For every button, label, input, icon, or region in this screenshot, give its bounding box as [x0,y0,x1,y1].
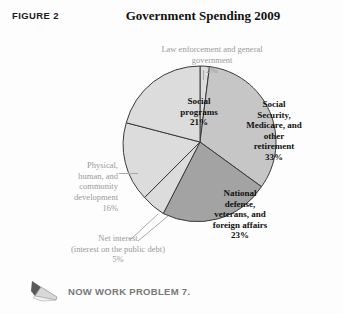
pie-label-social-programs-line2: programs [163,107,235,118]
figure-page: FIGURE 2 Government Spending 2009 Social… [0,0,343,314]
pie-callout-net-interest-value: 5% [48,254,188,265]
pie-label-social-security-line3: Medicare, and [238,120,310,131]
pie-label-national-defense-line4: foreign affairs [196,220,284,231]
pie-callout-physical-value: 16% [30,203,118,214]
pie-callout-law-enforcement-line1: Law enforcement and general [132,44,292,55]
chart-title: Government Spending 2009 [108,8,298,24]
pie-callout-physical-line3: community [30,181,118,192]
now-work-problem[interactable]: NOW WORK PROBLEM 7. [30,280,190,302]
pie-label-national-defense-line2: defense, [196,199,284,210]
leader-line-law-enforcement [203,70,204,80]
pie-label-social-programs: Social programs 21% [163,96,235,128]
pie-label-national-defense-line1: National [196,188,284,199]
pie-callout-law-enforcement-line2: government [132,55,292,66]
pencil-icon [30,280,60,302]
pie-label-social-programs-line1: Social [163,96,235,107]
figure-tag: FIGURE 2 [12,10,59,21]
pie-callout-net-interest-line2: (interest on the public debt) [48,244,188,255]
leader-line-physical-human-community [119,173,138,174]
pie-label-social-security-line2: Security, [238,110,310,121]
leader-line-net-interest [128,212,174,242]
pie-label-national-defense-value: 23% [196,230,284,241]
pie-callout-physical-human-community: Physical, human, and community developme… [30,160,118,213]
pie-label-national-defense: National defense, veterans, and foreign … [196,188,284,241]
pie-callout-law-enforcement-value: 2% [132,65,292,76]
pie-label-social-programs-value: 21% [163,117,235,128]
pie-callout-physical-line4: development [30,192,118,203]
pie-label-social-security: Social Security, Medicare, and other ret… [238,99,310,163]
pie-label-social-security-value: 33% [238,152,310,163]
pie-callout-physical-line2: human, and [30,171,118,182]
pie-callout-law-enforcement: Law enforcement and general government 2… [132,44,292,76]
now-work-problem-label: NOW WORK PROBLEM 7. [68,286,190,297]
pie-label-social-security-line4: other [238,131,310,142]
pie-label-national-defense-line3: veterans, and [196,209,284,220]
pie-label-social-security-line5: retirement [238,141,310,152]
pie-label-social-security-line1: Social [238,99,310,110]
pie-callout-physical-line1: Physical, [30,160,118,171]
